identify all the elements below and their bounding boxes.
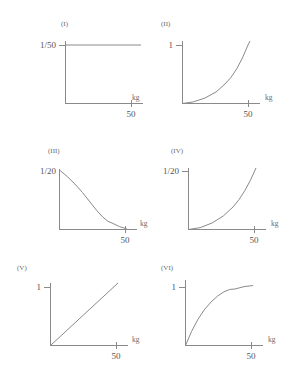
x-axis-unit-2: kg <box>265 93 273 102</box>
y-tick-label-5: 1 <box>37 282 42 292</box>
chart-panel-1: (I) 1/50 50 kg <box>0 0 153 126</box>
y-tick-label-1: 1/50 <box>40 40 57 50</box>
chart-panel-5: (V) 1 50 kg <box>0 252 153 378</box>
plot-svg-6: (VI) 1 50 kg <box>153 252 306 378</box>
plot-svg-1: (I) 1/50 50 kg <box>0 0 153 126</box>
panel-label-4: (IV) <box>171 147 184 155</box>
x-tick-label-6: 50 <box>247 351 257 361</box>
panel-label-3: (III) <box>48 147 60 155</box>
data-curve-4 <box>189 168 257 230</box>
chart-panel-2: (II) 1 50 kg <box>153 0 306 126</box>
axes-3 <box>60 169 138 230</box>
x-tick-label-2: 50 <box>244 109 254 119</box>
chart-panel-4: (IV) 1/20 50 kg <box>153 126 306 252</box>
x-tick-label-3: 50 <box>121 235 131 245</box>
x-axis-unit-4: kg <box>271 219 279 228</box>
data-curve-3 <box>60 170 128 229</box>
plot-svg-5: (V) 1 50 kg <box>0 252 153 378</box>
x-axis-unit-3: kg <box>140 219 148 228</box>
plot-svg-3: (III) 1/20 50 kg <box>0 126 153 252</box>
y-tick-label-2: 1 <box>169 40 174 50</box>
chart-panel-6: (VI) 1 50 kg <box>153 252 306 378</box>
plot-svg-4: (IV) 1/20 50 kg <box>153 126 306 252</box>
panel-label-5: (V) <box>17 264 27 272</box>
axes-2 <box>183 41 261 104</box>
panel-label-6: (VI) <box>161 264 174 272</box>
x-tick-label-4: 50 <box>250 235 260 245</box>
data-curve-5 <box>51 283 119 346</box>
panel-label-2: (II) <box>161 20 171 28</box>
axes-6 <box>186 280 264 346</box>
x-axis-unit-6: kg <box>268 335 276 344</box>
chart-panel-3: (III) 1/20 50 kg <box>0 126 153 252</box>
axes-5 <box>51 283 129 346</box>
x-tick-label-1: 50 <box>127 109 137 119</box>
y-tick-label-3: 1/20 <box>40 166 57 176</box>
figure-panel-grid: (I) 1/50 50 kg (II) 1 50 kg (III) 1/20 <box>0 0 307 378</box>
panel-label-1: (I) <box>61 20 69 28</box>
axes-4 <box>189 168 267 230</box>
x-axis-unit-1: kg <box>132 93 140 102</box>
x-axis-unit-5: kg <box>132 335 140 344</box>
y-tick-label-4: 1/20 <box>163 166 180 176</box>
plot-svg-2: (II) 1 50 kg <box>153 0 306 126</box>
data-curve-2 <box>183 41 251 104</box>
data-curve-6 <box>186 286 254 346</box>
y-tick-label-6: 1 <box>172 282 177 292</box>
x-tick-label-5: 50 <box>112 351 122 361</box>
